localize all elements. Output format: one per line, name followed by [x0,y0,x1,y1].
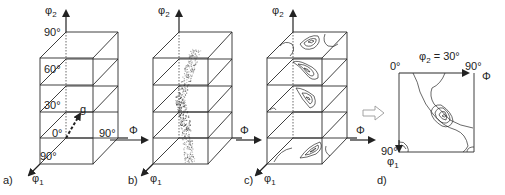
tick-90-phi2-a: 90° [44,26,61,38]
tick-90-Phi-a: 90° [99,127,116,139]
section-title-d: φ2 = 30° [419,50,460,67]
hollow-arrow-icon [363,106,384,120]
panel-d-label: d) [377,174,387,186]
g-vector-label: g [80,103,86,115]
phi2-axis-label-a: φ2 [45,4,57,21]
panel-a-label: a) [3,174,13,186]
panel-c-contours [270,34,338,162]
phi2-axis-label-c: φ2 [272,4,284,21]
Phi-axis-label-b: Φ [240,124,249,136]
panel-b-label: b) [128,174,138,186]
panel-d-contours [399,73,474,152]
phi1-axis-label-b: φ1 [150,172,162,189]
figure-graphics [0,0,505,195]
Phi-axis-label-d: Φ [482,70,491,82]
phi1-axis-label-c: φ1 [264,172,276,189]
Phi-axis-label-a: Φ [129,124,138,136]
Phi-axis-label-c: Φ [356,124,365,136]
panel-a-cube [40,32,118,164]
phi1-axis-label-a: φ1 [32,172,44,189]
tick-0-origin-d: 0° [390,60,401,72]
tick-60-phi2-a: 60° [44,63,61,75]
g-vector-arrow [66,114,80,138]
tick-30-phi2-a: 30° [44,99,61,111]
phi2-axis-label-b: φ2 [158,4,170,21]
euler-space-figure: φ2 90° 60° 30° 0° g 90° 90° a) φ1 Φ φ2 b… [0,0,505,195]
panel-d-section [399,73,474,152]
phi1-axis-label-d: φ1 [387,155,399,172]
tick-90-Phi-d: 90° [465,60,482,72]
tick-0-origin-a: 0° [52,127,63,139]
tick-90-phi1-a: 90° [40,150,57,162]
panel-c-label: c) [244,174,253,186]
